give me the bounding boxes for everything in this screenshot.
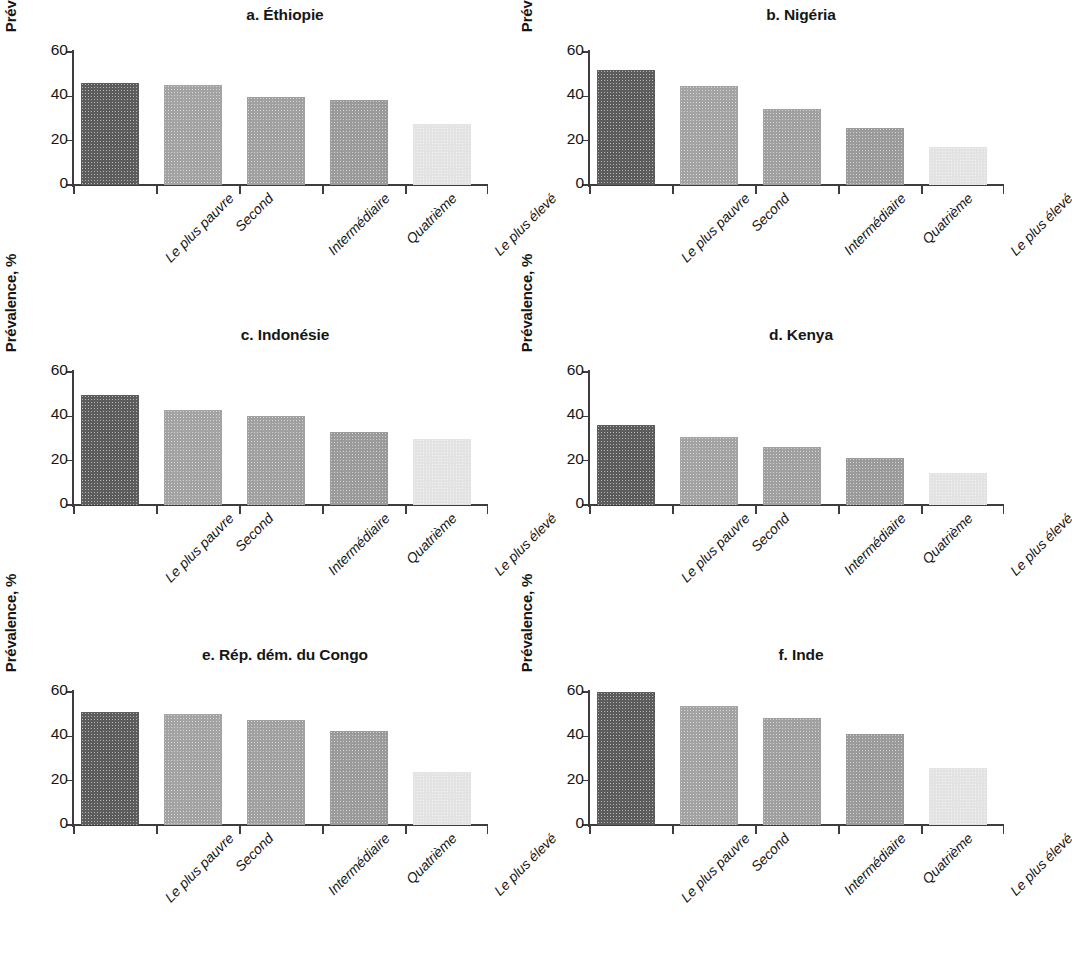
x-axis-tick-label: Quatrième: [918, 510, 975, 567]
bar: [680, 437, 738, 505]
x-axis-tick-label: Second: [231, 190, 275, 234]
plot-area: 0204060: [589, 372, 1004, 505]
bar: [413, 124, 471, 185]
bar: [680, 86, 738, 185]
x-axis-tick-label: Intermédiaire: [840, 190, 908, 258]
bar: [929, 147, 987, 185]
y-axis-tick-label: 40: [51, 85, 68, 103]
bar: [846, 734, 904, 825]
y-axis-tick-label: 60: [567, 41, 584, 59]
y-axis-tick-label: 60: [51, 681, 68, 699]
bar: [846, 128, 904, 185]
bar: [929, 473, 987, 505]
x-axis-tick-label: Le plus pauvre: [677, 190, 752, 265]
chart-panel-f: f. IndePrévalence, %0204060Le plus pauvr…: [516, 640, 1032, 956]
x-axis-tick-label: Second: [231, 830, 275, 874]
y-axis-label-text: Prévalence, %: [2, 0, 19, 58]
y-axis-tick-label: 40: [567, 405, 584, 423]
bar: [597, 692, 655, 825]
x-axis-tick-label: Quatrième: [402, 830, 459, 887]
x-axis-tick-label: Le plus pauvre: [677, 510, 752, 585]
x-axis-tick-label: Second: [747, 830, 791, 874]
x-axis-tick-label: Le plus élevé: [1006, 830, 1075, 899]
bar-group: [589, 372, 1004, 505]
y-axis-tick-label: 40: [51, 405, 68, 423]
bar: [763, 718, 821, 826]
y-axis-label: Prévalence, %: [518, 228, 540, 378]
y-axis-label: Prévalence, %: [518, 548, 540, 698]
y-axis-tick-label: 20: [51, 770, 68, 788]
y-axis-tick-label: 40: [567, 725, 584, 743]
x-axis-label-group: Le plus pauvreSecondIntermédiaireQuatriè…: [73, 190, 503, 310]
x-axis-tick-label: Le plus pauvre: [677, 830, 752, 905]
panel-title: b. Nigéria: [516, 6, 1032, 24]
x-axis-tick-label: Intermédiaire: [324, 190, 392, 258]
y-axis-tick-label: 0: [59, 494, 68, 512]
bar: [597, 70, 655, 185]
y-axis-label: Prévalence, %: [518, 0, 540, 58]
y-axis-tick-label: 0: [59, 814, 68, 832]
x-axis-tick-label: Le plus pauvre: [161, 510, 236, 585]
bar: [81, 712, 139, 825]
chart-panel-e: e. Rép. dém. du CongoPrévalence, %020406…: [0, 640, 516, 956]
x-axis-label-group: Le plus pauvreSecondIntermédiaireQuatriè…: [589, 190, 1019, 310]
bar: [763, 447, 821, 505]
chart-panel-b: b. NigériaPrévalence, %0204060Le plus pa…: [516, 0, 1032, 320]
bar: [81, 83, 139, 185]
y-axis-tick-label: 0: [575, 494, 584, 512]
x-axis-tick-label: Second: [231, 510, 275, 554]
y-axis-label-text: Prévalence, %: [2, 228, 19, 378]
bar: [247, 720, 305, 825]
bar: [164, 410, 222, 505]
bar: [247, 97, 305, 185]
panel-title: c. Indonésie: [0, 326, 516, 344]
y-axis-tick-label: 20: [51, 450, 68, 468]
plot-area: 0204060: [73, 692, 488, 825]
y-axis-label: Prévalence, %: [2, 0, 24, 58]
bar: [929, 768, 987, 825]
bar: [330, 100, 388, 185]
x-axis-tick-label: Second: [747, 190, 791, 234]
bar: [413, 772, 471, 825]
bar-group: [73, 52, 488, 185]
x-axis-tick-label: Second: [747, 510, 791, 554]
x-axis-tick-label: Le plus élevé: [1006, 190, 1075, 259]
panel-title: e. Rép. dém. du Congo: [0, 646, 516, 664]
bar: [846, 458, 904, 505]
x-axis-tick-label: Le plus pauvre: [161, 190, 236, 265]
y-axis-tick-label: 0: [575, 814, 584, 832]
bar-group: [73, 372, 488, 505]
chart-panel-d: d. KenyaPrévalence, %0204060Le plus pauv…: [516, 320, 1032, 640]
y-axis-tick-label: 0: [59, 174, 68, 192]
plot-area: 0204060: [589, 52, 1004, 185]
x-axis-label-group: Le plus pauvreSecondIntermédiaireQuatriè…: [73, 830, 503, 950]
bar: [247, 416, 305, 505]
y-axis-tick-label: 40: [567, 85, 584, 103]
y-axis-tick-label: 20: [567, 450, 584, 468]
chart-panel-c: c. IndonésiePrévalence, %0204060Le plus …: [0, 320, 516, 640]
bar-group: [589, 692, 1004, 825]
y-axis-label: Prévalence, %: [2, 228, 24, 378]
x-axis-tick-label: Le plus pauvre: [161, 830, 236, 905]
x-axis-label-group: Le plus pauvreSecondIntermédiaireQuatriè…: [73, 510, 503, 630]
bar: [413, 439, 471, 506]
y-axis-tick-label: 60: [567, 681, 584, 699]
bar: [763, 109, 821, 185]
x-axis-label-group: Le plus pauvreSecondIntermédiaireQuatriè…: [589, 830, 1019, 950]
x-axis-tick-label: Intermédiaire: [324, 510, 392, 578]
y-axis-label-text: Prévalence, %: [518, 228, 535, 378]
bar: [597, 425, 655, 505]
panel-title: d. Kenya: [516, 326, 1032, 344]
y-axis-tick-label: 60: [567, 361, 584, 379]
bar-group: [589, 52, 1004, 185]
bar: [330, 432, 388, 505]
y-axis-tick-label: 20: [567, 130, 584, 148]
x-axis-tick-label: Quatrième: [918, 190, 975, 247]
y-axis-label: Prévalence, %: [2, 548, 24, 698]
bar: [164, 85, 222, 185]
y-axis-tick-label: 0: [575, 174, 584, 192]
y-axis-tick-label: 20: [51, 130, 68, 148]
plot-area: 0204060: [73, 372, 488, 505]
plot-area: 0204060: [589, 692, 1004, 825]
